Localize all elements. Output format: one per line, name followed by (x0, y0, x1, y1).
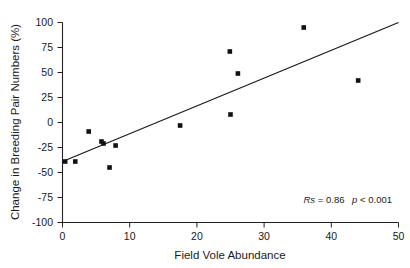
data-point (73, 159, 78, 164)
chart-canvas: 100 75 50 25 0 -25 -50 -75 -100 0 10 20 … (0, 0, 410, 268)
trend-line (63, 23, 399, 162)
scatter-plot-figure: 100 75 50 25 0 -25 -50 -75 -100 0 10 20 … (0, 0, 410, 268)
data-point (107, 165, 112, 170)
data-point (86, 129, 91, 134)
y-tick-label: 25 (41, 91, 53, 103)
rs-value: 0.86 (326, 194, 345, 205)
data-point (63, 159, 68, 164)
correlation-statistics-annotation: Rs = 0.86 p < 0.001 (304, 194, 393, 205)
y-axis-tick-labels: 100 75 50 25 0 -25 -50 -75 -100 (32, 16, 53, 228)
data-point (356, 78, 361, 83)
data-point (301, 25, 306, 30)
x-axis-ticks (63, 223, 399, 228)
data-point (178, 123, 183, 128)
x-axis-tick-labels: 0 10 20 30 40 50 (60, 230, 405, 242)
data-point (228, 49, 233, 54)
y-tick-label: 75 (41, 41, 53, 53)
data-point (236, 71, 241, 76)
y-axis-ticks (58, 23, 63, 223)
data-point (101, 141, 106, 146)
y-tick-label: -75 (38, 191, 53, 203)
y-tick-label: -100 (32, 216, 53, 228)
x-axis-title: Field Vole Abundance (174, 249, 285, 261)
x-tick-label: 10 (124, 230, 136, 242)
data-point (228, 112, 233, 117)
x-tick-label: 0 (60, 230, 66, 242)
data-point (113, 143, 118, 148)
equals-sign: = (315, 194, 326, 205)
rs-symbol: Rs (304, 194, 316, 205)
y-tick-label: 0 (47, 116, 53, 128)
x-tick-label: 20 (191, 230, 203, 242)
p-value: < 0.001 (357, 194, 392, 205)
y-tick-label: -25 (38, 141, 53, 153)
data-point-group (63, 25, 361, 170)
x-tick-label: 50 (393, 230, 405, 242)
x-tick-label: 30 (258, 230, 270, 242)
y-tick-label: 50 (41, 66, 53, 78)
y-axis-title: Change in Breeding Pair Numbers (%) (9, 24, 21, 220)
y-tick-label: -50 (38, 166, 53, 178)
x-tick-label: 40 (325, 230, 337, 242)
y-tick-label: 100 (35, 16, 53, 28)
